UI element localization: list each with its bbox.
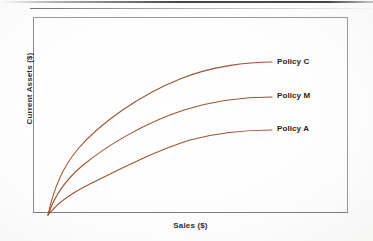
series-label-policy-m: Policy M	[277, 91, 310, 100]
x-axis-title: Sales ($)	[33, 221, 348, 230]
chart-screenshot: Current Assets ($) Sales ($) Policy C Po…	[0, 0, 373, 241]
series-label-policy-c: Policy C	[277, 57, 309, 66]
y-axis-title: Current Assets ($)	[25, 34, 34, 144]
series-label-policy-a: Policy A	[277, 124, 309, 133]
curve-policy-c	[48, 62, 272, 215]
curve-policy-m	[48, 97, 272, 215]
curve-layer	[0, 0, 373, 241]
curve-policy-a	[48, 130, 272, 215]
